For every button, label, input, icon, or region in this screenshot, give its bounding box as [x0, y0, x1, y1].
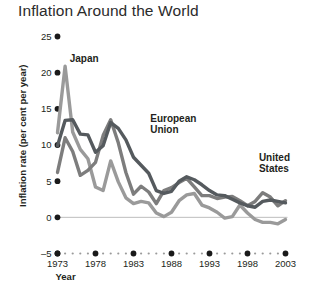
- svg-text:20: 20: [41, 67, 52, 78]
- data-series-lines: [58, 66, 286, 224]
- y-axis-tick-labels: 2520151050–5: [41, 31, 52, 259]
- svg-text:1993: 1993: [199, 258, 220, 269]
- svg-text:1973: 1973: [47, 258, 68, 269]
- svg-text:2003: 2003: [275, 258, 296, 269]
- svg-text:Year: Year: [56, 271, 76, 282]
- svg-text:EuropeanUnion: EuropeanUnion: [150, 113, 196, 135]
- svg-text:1978: 1978: [85, 258, 106, 269]
- svg-text:5: 5: [46, 176, 51, 187]
- chart-plot-area: 2520151050–5 197319781983198819931998200…: [0, 0, 318, 295]
- svg-text:0: 0: [46, 212, 51, 223]
- svg-text:15: 15: [41, 103, 52, 114]
- svg-text:1988: 1988: [161, 258, 182, 269]
- svg-text:10: 10: [41, 139, 52, 150]
- axis-tick-dots: [55, 34, 289, 257]
- inflation-chart: Inflation Around the World 2520151050–5 …: [0, 0, 318, 295]
- svg-text:1998: 1998: [237, 258, 258, 269]
- series-annotations: JapanEuropeanUnionUnitedStates: [70, 53, 290, 174]
- svg-text:25: 25: [41, 31, 52, 42]
- svg-text:UnitedStates: UnitedStates: [259, 152, 290, 174]
- svg-text:Japan: Japan: [70, 53, 99, 64]
- svg-text:Inflation rate (per cent per y: Inflation rate (per cent per year): [17, 64, 28, 207]
- x-axis-tick-labels: 1973197819831988199319982003: [47, 258, 296, 269]
- svg-text:1983: 1983: [123, 258, 144, 269]
